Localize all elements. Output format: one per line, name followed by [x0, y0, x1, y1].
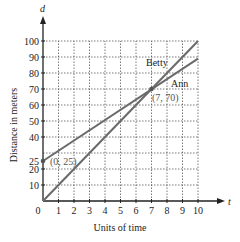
y-tick-label: 50	[29, 116, 39, 127]
x-tick-label: 4	[103, 205, 108, 216]
x-axis-title: Units of time	[94, 222, 147, 233]
x-tick-label: 7	[149, 205, 154, 216]
series-label-betty: Betty	[146, 57, 168, 68]
x-tick-label: 0	[36, 205, 41, 216]
y-tick-label: 10	[29, 180, 39, 191]
labels: BettyAnn(0, 25)(7, 70)dtUnits of timeDis…	[8, 3, 231, 233]
y-variable-label: d	[40, 3, 46, 14]
x-tick-label: 3	[87, 205, 92, 216]
x-tick-label: 1	[56, 205, 61, 216]
y-tick-label: 70	[29, 84, 39, 95]
point-7-70	[149, 87, 154, 92]
x-tick-label: 2	[72, 205, 77, 216]
x-tick-label: 5	[118, 205, 123, 216]
y-tick-label: 100	[24, 36, 39, 47]
point-0-25	[41, 159, 46, 164]
y-axis-arrow-icon	[40, 16, 46, 24]
y-axis-title: Distance in meters	[8, 88, 19, 163]
x-tick-label: 9	[180, 205, 185, 216]
x-variable-label: t	[228, 196, 231, 207]
y-tick-label: 60	[29, 100, 39, 111]
x-tick-label: 6	[134, 205, 139, 216]
y-tick-label: 90	[29, 52, 39, 63]
series-label-ann: Ann	[171, 78, 188, 89]
y-tick-label: 40	[29, 132, 39, 143]
annotation-7-70: (7, 70)	[152, 92, 179, 104]
x-tick-label: 8	[165, 205, 170, 216]
x-axis-arrow-icon	[217, 198, 225, 204]
y-tick-label: 80	[29, 68, 39, 79]
y-tick-label: 25	[29, 156, 39, 167]
x-tick-label: 10	[193, 205, 203, 216]
line-chart: 012345678910102025405060708090100 BettyA…	[0, 0, 240, 242]
annotation-0-25: (0, 25)	[50, 156, 77, 168]
